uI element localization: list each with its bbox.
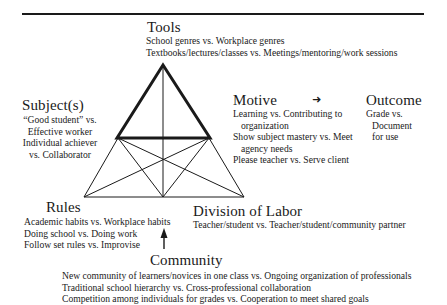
node-subject: Subject(s) “Good student” vs. Effective … xyxy=(22,97,98,160)
node-title: Motive xyxy=(233,92,353,108)
node-tools: Tools School genres vs. Workplace genres… xyxy=(146,19,397,58)
node-line: “Good student” vs. xyxy=(22,114,98,126)
node-title: Division of Labor xyxy=(193,203,406,219)
node-title: Subject(s) xyxy=(22,97,98,113)
node-line: agency needs xyxy=(233,143,353,155)
node-line: Academic habits vs. Workplace habits xyxy=(24,216,170,228)
right-arrow-icon: ➜ xyxy=(312,94,321,105)
node-line: Effective worker xyxy=(22,126,98,138)
node-motive: Motive Learning vs. Contributing to orga… xyxy=(233,92,353,166)
node-line: School genres vs. Workplace genres xyxy=(146,35,397,47)
node-community: Community New community of learners/novi… xyxy=(62,252,411,305)
node-line: Doing school vs. Doing work xyxy=(24,228,170,240)
node-line: Document xyxy=(366,120,422,132)
node-line: Individual achiever xyxy=(22,137,98,149)
left-mid-to-bottom-right xyxy=(118,138,244,197)
node-line: Learning vs. Contributing to xyxy=(233,108,353,120)
node-line: Grade vs. xyxy=(366,108,422,120)
node-line: Show subject mastery vs. Meet xyxy=(233,131,353,143)
node-title: Rules xyxy=(46,199,170,215)
node-rules: Rules Academic habits vs. Workplace habi… xyxy=(24,199,170,251)
node-line: Please teacher vs. Serve client xyxy=(233,154,353,166)
node-line: Teacher/student vs. Teacher/student/comm… xyxy=(193,219,406,231)
right-mid-to-bottom-left xyxy=(84,138,209,197)
node-line: for use xyxy=(366,131,422,143)
node-line: Follow set rules vs. Improvise xyxy=(24,239,170,251)
node-line: New community of learners/novices in one… xyxy=(62,270,411,282)
node-line: organization xyxy=(233,120,353,132)
node-title: Tools xyxy=(147,19,397,35)
node-line: Competition among individuals for grades… xyxy=(62,293,411,305)
node-line: Traditional school hierarchy vs. Cross-p… xyxy=(62,282,411,294)
node-title: Outcome xyxy=(366,92,422,108)
right-mid-to-bottom-mid xyxy=(163,138,209,197)
node-title: Community xyxy=(150,252,411,268)
node-division-of-labor: Division of Labor Teacher/student vs. Te… xyxy=(193,203,406,231)
node-outcome: Outcome Grade vs. Document for use xyxy=(366,92,422,143)
node-line: vs. Collaborator xyxy=(22,149,98,161)
left-mid-to-bottom-mid xyxy=(118,138,163,197)
node-line: Textbooks/lectures/classes vs. Meetings/… xyxy=(146,47,397,59)
